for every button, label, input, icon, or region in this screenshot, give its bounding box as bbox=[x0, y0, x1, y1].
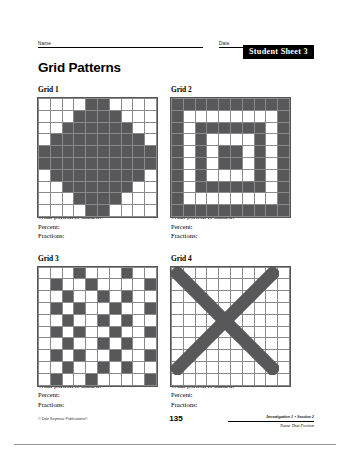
grid-square[interactable] bbox=[39, 122, 51, 134]
grid-square[interactable] bbox=[145, 338, 157, 350]
grid-square[interactable] bbox=[97, 350, 109, 362]
grid-square[interactable] bbox=[145, 134, 157, 146]
grid-square[interactable] bbox=[266, 134, 278, 146]
grid-table-3[interactable] bbox=[38, 267, 157, 386]
grid-square[interactable] bbox=[242, 157, 254, 169]
grid-square[interactable] bbox=[254, 303, 266, 315]
grid-square[interactable] bbox=[62, 157, 74, 169]
grid-square[interactable] bbox=[172, 350, 184, 362]
grid-square[interactable] bbox=[39, 291, 51, 303]
grid-square[interactable] bbox=[109, 181, 121, 193]
grid-square[interactable] bbox=[133, 303, 145, 315]
grid-square[interactable] bbox=[207, 373, 219, 385]
grid-square[interactable] bbox=[230, 314, 242, 326]
grid-square[interactable] bbox=[207, 338, 219, 350]
grid-square[interactable] bbox=[266, 338, 278, 350]
grid-square[interactable] bbox=[145, 205, 157, 217]
grid-square[interactable] bbox=[62, 326, 74, 338]
grid-square[interactable] bbox=[172, 146, 184, 158]
grid-square[interactable] bbox=[207, 193, 219, 205]
grid-square[interactable] bbox=[219, 291, 231, 303]
grid-square[interactable] bbox=[219, 157, 231, 169]
grid-square[interactable] bbox=[172, 110, 184, 122]
grid-square[interactable] bbox=[145, 267, 157, 279]
grid-square[interactable] bbox=[230, 193, 242, 205]
grid-square[interactable] bbox=[133, 181, 145, 193]
grid-square[interactable] bbox=[230, 110, 242, 122]
grid-square[interactable] bbox=[74, 181, 86, 193]
grid-square[interactable] bbox=[121, 122, 133, 134]
grid-square[interactable] bbox=[97, 362, 109, 374]
grid-square[interactable] bbox=[242, 205, 254, 217]
grid-square[interactable] bbox=[195, 373, 207, 385]
grid-square[interactable] bbox=[195, 110, 207, 122]
grid-square[interactable] bbox=[183, 146, 195, 158]
grid-square[interactable] bbox=[242, 314, 254, 326]
grid-square[interactable] bbox=[62, 279, 74, 291]
grid-square[interactable] bbox=[195, 267, 207, 279]
grid-square[interactable] bbox=[242, 134, 254, 146]
grid-square[interactable] bbox=[133, 314, 145, 326]
grid-square[interactable] bbox=[39, 146, 51, 158]
grid-square[interactable] bbox=[145, 326, 157, 338]
grid-square[interactable] bbox=[278, 291, 290, 303]
grid-square[interactable] bbox=[172, 181, 184, 193]
grid-square[interactable] bbox=[62, 110, 74, 122]
grid-square[interactable] bbox=[97, 303, 109, 315]
grid-square[interactable] bbox=[121, 267, 133, 279]
grid-square[interactable] bbox=[266, 110, 278, 122]
grid-square[interactable] bbox=[242, 181, 254, 193]
grid-square[interactable] bbox=[278, 146, 290, 158]
grid-square[interactable] bbox=[62, 362, 74, 374]
grid-square[interactable] bbox=[278, 193, 290, 205]
grid-square[interactable] bbox=[183, 99, 195, 111]
grid-square[interactable] bbox=[230, 291, 242, 303]
grid-square[interactable] bbox=[133, 157, 145, 169]
grid-square[interactable] bbox=[278, 314, 290, 326]
grid-square[interactable] bbox=[109, 362, 121, 374]
grid-square[interactable] bbox=[74, 326, 86, 338]
grid-square[interactable] bbox=[172, 122, 184, 134]
grid-square[interactable] bbox=[278, 373, 290, 385]
grid-square[interactable] bbox=[62, 146, 74, 158]
grid-square[interactable] bbox=[195, 99, 207, 111]
grid-square[interactable] bbox=[62, 338, 74, 350]
grid-square[interactable] bbox=[195, 181, 207, 193]
grid-square[interactable] bbox=[145, 279, 157, 291]
grid-square[interactable] bbox=[183, 350, 195, 362]
grid-square[interactable] bbox=[121, 110, 133, 122]
grid-square[interactable] bbox=[183, 157, 195, 169]
grid-square[interactable] bbox=[133, 205, 145, 217]
grid-square[interactable] bbox=[121, 157, 133, 169]
grid-square[interactable] bbox=[219, 205, 231, 217]
name-field[interactable]: Name bbox=[38, 41, 203, 48]
grid-square[interactable] bbox=[109, 169, 121, 181]
grid-square[interactable] bbox=[278, 157, 290, 169]
grid-square[interactable] bbox=[50, 362, 62, 374]
grid-square[interactable] bbox=[39, 157, 51, 169]
grid-square[interactable] bbox=[172, 279, 184, 291]
grid-square[interactable] bbox=[207, 362, 219, 374]
grid-square[interactable] bbox=[183, 303, 195, 315]
grid-square[interactable] bbox=[278, 110, 290, 122]
grid-square[interactable] bbox=[207, 205, 219, 217]
grid-square[interactable] bbox=[74, 205, 86, 217]
grid-square[interactable] bbox=[74, 99, 86, 111]
grid-square[interactable] bbox=[207, 146, 219, 158]
grid-square[interactable] bbox=[207, 169, 219, 181]
grid-square[interactable] bbox=[172, 205, 184, 217]
grid-square[interactable] bbox=[278, 205, 290, 217]
grid-square[interactable] bbox=[109, 122, 121, 134]
grid-square[interactable] bbox=[50, 338, 62, 350]
grid-square[interactable] bbox=[254, 362, 266, 374]
grid-square[interactable] bbox=[207, 291, 219, 303]
grid-square[interactable] bbox=[62, 373, 74, 385]
grid-square[interactable] bbox=[121, 279, 133, 291]
grid-square[interactable] bbox=[145, 157, 157, 169]
grid-square[interactable] bbox=[145, 373, 157, 385]
grid-square[interactable] bbox=[50, 205, 62, 217]
grid-square[interactable] bbox=[109, 338, 121, 350]
grid-square[interactable] bbox=[133, 122, 145, 134]
grid-square[interactable] bbox=[39, 362, 51, 374]
grid-table-1[interactable] bbox=[38, 98, 157, 217]
